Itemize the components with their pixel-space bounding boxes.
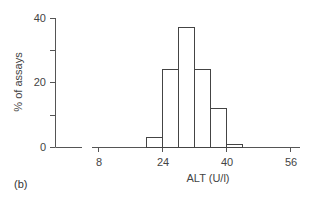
bar-28-32 bbox=[179, 28, 195, 148]
panel-label: (b) bbox=[14, 178, 27, 190]
y-tick-40: 40 bbox=[34, 12, 46, 24]
y-axis-label: % of assays bbox=[12, 52, 24, 112]
y-tick-20: 20 bbox=[34, 76, 46, 88]
bar-32-36 bbox=[195, 70, 211, 148]
x-tick-56: 56 bbox=[285, 156, 297, 168]
bar-40-44 bbox=[227, 145, 243, 148]
bar-36-40 bbox=[211, 109, 227, 148]
x-tick-8: 8 bbox=[96, 156, 102, 168]
histogram-chart: 40 20 0 % of assays 8 24 40 56 ALT (U/l)… bbox=[0, 0, 314, 198]
y-axis bbox=[50, 18, 82, 148]
bar-20-24 bbox=[147, 138, 163, 148]
x-axis bbox=[92, 148, 300, 153]
histogram-bars bbox=[147, 28, 243, 148]
x-tick-24: 24 bbox=[157, 156, 169, 168]
x-axis-label: ALT (U/l) bbox=[187, 172, 230, 184]
y-tick-0: 0 bbox=[40, 141, 46, 153]
x-tick-40: 40 bbox=[221, 156, 233, 168]
bar-24-28 bbox=[163, 70, 179, 148]
